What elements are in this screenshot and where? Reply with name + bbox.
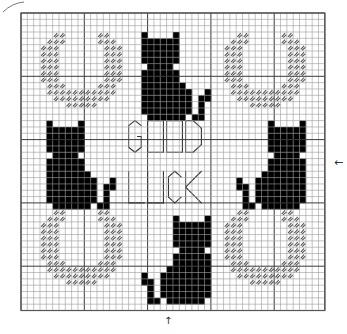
stitch-layer — [41, 32, 306, 304]
page-curl-mark — [3, 2, 24, 12]
word-luck — [129, 171, 202, 203]
center-column-arrow-icon: ↑ — [164, 316, 172, 326]
center-row-arrow-icon: ← — [334, 157, 343, 168]
word-good — [129, 121, 202, 153]
good-luck-lettering — [129, 121, 202, 203]
cross-stitch-chart — [0, 0, 347, 334]
